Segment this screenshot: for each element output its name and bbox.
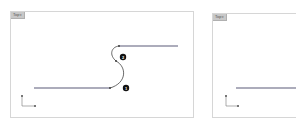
viewport-canvas[interactable]: 2 1 — [11, 12, 194, 118]
viewport-stage: Top▾ 2 1 — [0, 0, 296, 124]
badge-2: 2 — [120, 54, 126, 60]
viewport-top-right[interactable]: Top▾ — [212, 13, 296, 118]
curve-endpoint[interactable] — [109, 87, 111, 89]
world-axis-icon — [21, 95, 36, 107]
viewport-top-left[interactable]: Top▾ 2 1 — [10, 11, 194, 118]
badge-1: 1 — [123, 85, 129, 91]
blend-curve[interactable] — [110, 46, 124, 88]
world-axis-icon — [225, 95, 239, 107]
viewport-canvas[interactable] — [213, 14, 296, 118]
curve-endpoint[interactable] — [118, 45, 120, 47]
curve-point[interactable] — [115, 60, 117, 62]
